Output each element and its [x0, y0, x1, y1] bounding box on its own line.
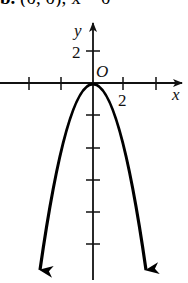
x-tick-label-2: 2: [118, 91, 127, 110]
y-axis-label: y: [72, 21, 82, 40]
x-axis-label: x: [171, 85, 180, 104]
y-tick-label-2: 2: [72, 43, 81, 62]
origin-label: O: [96, 62, 108, 81]
parabola-graph: y 2 O 2 x: [0, 0, 188, 283]
